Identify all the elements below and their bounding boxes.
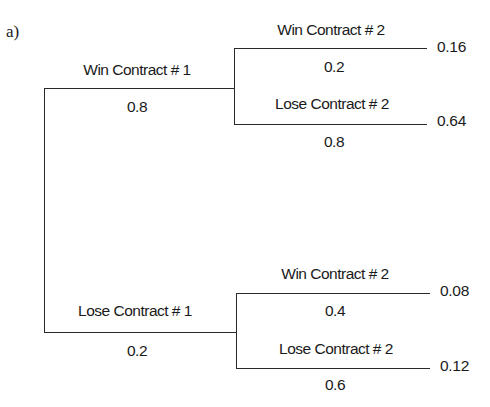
leaf-lose1-lose2-label: Lose Contract # 2: [279, 340, 393, 358]
branch-lose-1-connector: [236, 293, 237, 369]
leaf-win1-lose2-joint: 0.64: [437, 112, 466, 130]
branch-win-1-line: [44, 88, 235, 89]
branch-win-1-connector: [234, 48, 235, 125]
part-label: a): [6, 22, 19, 42]
branch-lose-1-label: Lose Contract # 1: [78, 302, 192, 320]
branch-lose-1-line: [44, 332, 237, 333]
leaf-win1-win2-probability: 0.2: [324, 58, 344, 76]
leaf-win1-lose2-line: [234, 124, 427, 125]
branch-win-1-label: Win Contract # 1: [83, 61, 190, 79]
leaf-win1-lose2-probability: 0.8: [324, 133, 344, 151]
leaf-win1-win2-joint: 0.16: [437, 38, 466, 56]
leaf-lose1-lose2-line: [236, 368, 430, 369]
leaf-lose1-lose2-joint: 0.12: [440, 357, 469, 375]
leaf-lose1-win2-probability: 0.4: [325, 302, 345, 320]
branch-win-1-probability: 0.8: [127, 98, 147, 116]
leaf-lose1-win2-line: [236, 293, 430, 294]
branch-lose-1-probability: 0.2: [127, 342, 147, 360]
leaf-win1-lose2-label: Lose Contract # 2: [275, 95, 389, 113]
leaf-lose1-lose2-probability: 0.6: [325, 376, 345, 394]
root-connector: [44, 88, 45, 333]
leaf-win1-win2-label: Win Contract # 2: [277, 21, 384, 39]
leaf-lose1-win2-joint: 0.08: [440, 282, 469, 300]
leaf-win1-win2-line: [234, 48, 427, 49]
leaf-lose1-win2-label: Win Contract # 2: [281, 265, 388, 283]
